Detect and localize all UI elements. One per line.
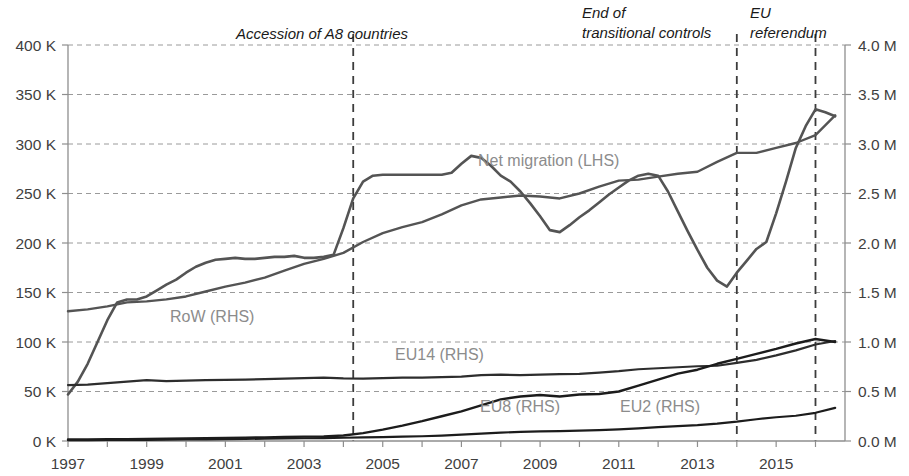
x-tick-label: 2015 bbox=[759, 455, 793, 472]
left-tick-label: 300 K bbox=[15, 136, 56, 153]
x-tick-label: 2001 bbox=[208, 455, 242, 472]
chart-canvas: 0 K50 K100 K150 K200 K250 K300 K350 K400… bbox=[0, 0, 909, 476]
left-tick-label: 350 K bbox=[15, 86, 56, 103]
annotation-eu-referendum-line1: EU bbox=[750, 4, 771, 21]
series-label-eu8: EU8 (RHS) bbox=[480, 398, 560, 415]
migration-chart: 0 K50 K100 K150 K200 K250 K300 K350 K400… bbox=[0, 0, 909, 476]
x-tick-label: 1999 bbox=[129, 455, 163, 472]
x-tick-label: 2009 bbox=[523, 455, 557, 472]
x-tick-label: 2011 bbox=[602, 455, 635, 472]
series-label-eu2: EU2 (RHS) bbox=[620, 398, 700, 415]
right-tick-label: 0.5 M bbox=[858, 383, 897, 400]
left-tick-label: 250 K bbox=[15, 185, 56, 202]
series-label-row: RoW (RHS) bbox=[170, 308, 254, 325]
annotation-end-of-transitional-controls-line1: End of bbox=[582, 4, 627, 21]
left-tick-label: 200 K bbox=[15, 235, 56, 252]
right-tick-label: 2.5 M bbox=[858, 185, 897, 202]
annotation-accession-of-a8-countries: Accession of A8 countries bbox=[235, 25, 409, 42]
right-tick-label: 4.0 M bbox=[858, 37, 897, 54]
x-tick-label: 2005 bbox=[365, 455, 399, 472]
x-tick-label: 2003 bbox=[287, 455, 321, 472]
right-tick-label: 1.5 M bbox=[858, 284, 897, 301]
left-tick-label: 400 K bbox=[15, 37, 56, 54]
x-tick-label: 2007 bbox=[444, 455, 478, 472]
annotation-end-of-transitional-controls-line2: transitional controls bbox=[582, 24, 712, 41]
right-tick-label: 3.0 M bbox=[858, 136, 897, 153]
left-tick-label: 100 K bbox=[15, 334, 56, 351]
left-tick-label: 50 K bbox=[24, 383, 57, 400]
chart-background bbox=[0, 0, 909, 476]
right-tick-label: 3.5 M bbox=[858, 86, 897, 103]
x-tick-label: 2013 bbox=[680, 455, 714, 472]
series-label-eu14: EU14 (RHS) bbox=[395, 346, 484, 363]
x-tick-label: 1997 bbox=[51, 455, 85, 472]
left-tick-label: 0 K bbox=[33, 433, 57, 450]
right-tick-label: 0.0 M bbox=[858, 433, 897, 450]
series-label-net: Net migration (LHS) bbox=[478, 152, 619, 169]
right-tick-label: 1.0 M bbox=[858, 334, 897, 351]
annotation-eu-referendum-line2: referendum bbox=[750, 24, 827, 41]
right-tick-label: 2.0 M bbox=[858, 235, 897, 252]
left-tick-label: 150 K bbox=[15, 284, 56, 301]
